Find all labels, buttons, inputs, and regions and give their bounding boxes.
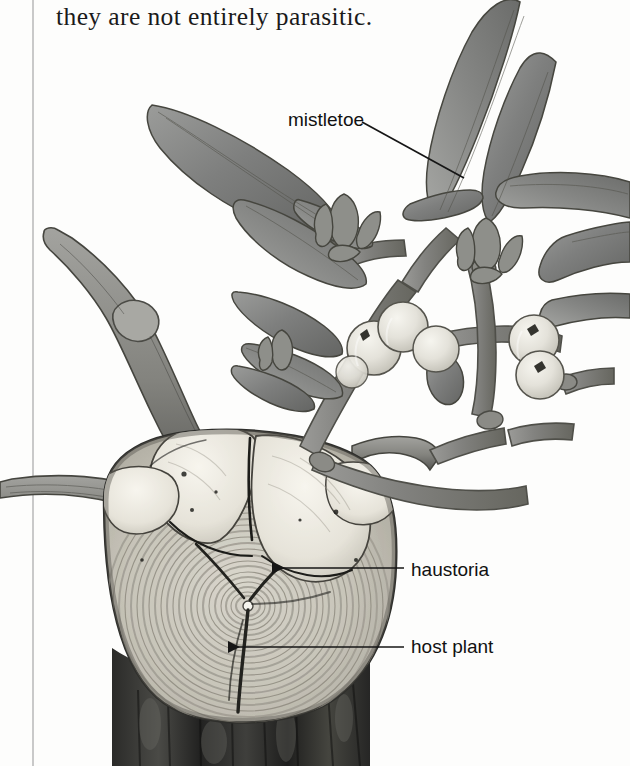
callout-label-mistletoe: mistletoe	[288, 109, 364, 131]
callout-label-haustoria: haustoria	[411, 559, 489, 581]
callout-label-host-plant: host plant	[411, 636, 493, 658]
scanned-book-page: they are not entirely parasitic.	[0, 0, 630, 766]
